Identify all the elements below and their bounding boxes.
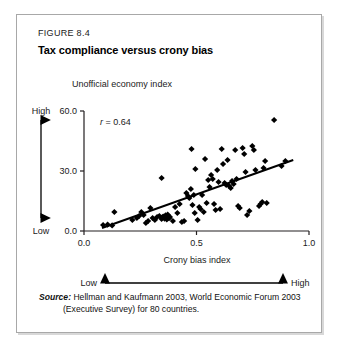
data-point <box>211 201 217 207</box>
data-point <box>202 156 208 162</box>
scatter-plot: High Low 0.030.060.0 0.00.51.0 r = 0.64 … <box>17 15 323 334</box>
plot-svg: High Low 0.030.060.0 0.00.51.0 r = 0.64 … <box>17 15 323 334</box>
correlation-annotation: r = 0.64 <box>100 117 131 127</box>
data-point <box>219 146 225 152</box>
source-label: Source: <box>39 292 71 302</box>
data-point <box>224 157 230 163</box>
data-point <box>189 202 195 208</box>
data-point <box>264 200 270 206</box>
y-tick-label: 0.0 <box>64 226 77 236</box>
y-high-label: High <box>32 106 51 116</box>
data-point <box>220 161 226 167</box>
x-low-label: Low <box>80 278 97 288</box>
data-point <box>271 117 277 123</box>
y-tick-label: 30.0 <box>59 166 77 176</box>
data-point <box>232 147 238 153</box>
data-point <box>192 210 198 216</box>
data-point <box>215 179 221 185</box>
data-point <box>240 145 246 151</box>
y-tick-label: 60.0 <box>59 106 77 116</box>
data-point <box>205 177 211 183</box>
x-tick-labels: 0.00.51.0 <box>78 238 316 248</box>
x-tick-label: 1.0 <box>303 238 316 248</box>
data-point <box>172 204 178 210</box>
x-high-label: High <box>291 278 310 288</box>
data-point <box>174 210 180 216</box>
data-point <box>213 207 219 213</box>
y-tick-labels: 0.030.060.0 <box>59 106 77 236</box>
data-point <box>214 167 220 173</box>
data-point <box>242 169 248 175</box>
data-point <box>262 158 268 164</box>
data-point <box>241 151 247 157</box>
source-line-2: (Executive Survey) for 80 countries. <box>39 303 307 315</box>
data-point <box>195 217 201 223</box>
x-tick-label: 0.5 <box>190 238 203 248</box>
x-axis-title: Crony bias index <box>163 255 231 265</box>
y-low-label: Low <box>33 226 50 236</box>
data-point <box>159 175 165 181</box>
source-note: Source: Hellman and Kaufmann 2003, World… <box>39 291 307 316</box>
source-line-1: Hellman and Kaufmann 2003, World Economi… <box>73 292 300 302</box>
data-point <box>204 200 210 206</box>
data-point <box>188 186 194 192</box>
plot-axes <box>80 111 309 235</box>
data-point <box>191 192 197 198</box>
figure-card: FIGURE 8.4 Tax compliance versus crony b… <box>16 14 322 333</box>
data-point <box>192 166 198 172</box>
data-point <box>111 209 117 215</box>
x-tick-label: 0.0 <box>78 238 91 248</box>
data-point <box>188 146 194 152</box>
data-point <box>217 206 223 212</box>
